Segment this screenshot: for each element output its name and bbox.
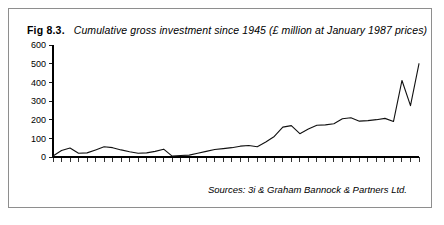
- y-axis-tick-label: 600: [31, 41, 46, 50]
- data-series-group: [53, 64, 419, 156]
- y-axis-tick-label: 300: [31, 96, 46, 106]
- figure-caption-text: Cumulative gross investment since 1945 (…: [74, 24, 427, 36]
- figure-frame: Fig 8.3. Cumulative gross investment sin…: [8, 8, 432, 208]
- source-note: Sources: 3i & Graham Bannock & Partners …: [208, 184, 407, 195]
- figure-number-label: Fig 8.3.: [27, 24, 65, 36]
- line-chart-svg: 0100200300400500600 19461948195019521954…: [19, 41, 423, 181]
- y-axis-tick-label: 0: [41, 152, 46, 162]
- investment-data-line: [53, 64, 419, 156]
- y-axis: 0100200300400500600: [31, 41, 53, 162]
- x-axis: 1946194819501952195419561958196019621964…: [48, 157, 419, 181]
- y-axis-tick-label: 500: [31, 59, 46, 69]
- figure-caption: Fig 8.3. Cumulative gross investment sin…: [27, 21, 427, 39]
- y-axis-tick-label: 100: [31, 134, 46, 144]
- chart-plot-area: 0100200300400500600 19461948195019521954…: [19, 41, 423, 181]
- y-axis-tick-label: 200: [31, 115, 46, 125]
- y-axis-tick-label: 400: [31, 78, 46, 88]
